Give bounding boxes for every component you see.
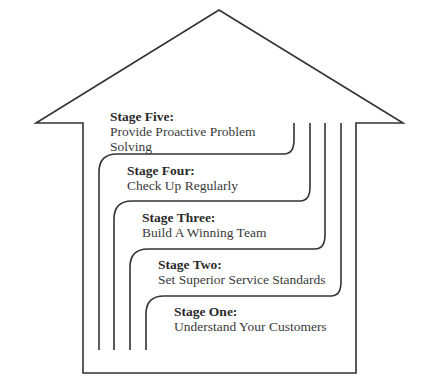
stage-two-text: Set Superior Service Standards: [158, 272, 326, 287]
stage-three-text: Build A Winning Team: [142, 225, 266, 240]
stage-four-text: Check Up Regularly: [127, 178, 238, 193]
stage-five-title: Stage Five:: [110, 109, 255, 124]
stage-one-title: Stage One:: [174, 304, 327, 319]
stage-five-text-line-1: Provide Proactive Problem: [110, 124, 255, 139]
stage-five-text-line-2: Solving: [110, 139, 255, 154]
stage-two: Stage Two: Set Superior Service Standard…: [158, 257, 326, 287]
stage-three-title: Stage Three:: [142, 210, 266, 225]
stage-four-title: Stage Four:: [127, 163, 238, 178]
stage-one: Stage One: Understand Your Customers: [174, 304, 327, 334]
stage-five: Stage Five: Provide Proactive Problem So…: [110, 109, 255, 154]
stage-three: Stage Three: Build A Winning Team: [142, 210, 266, 240]
stage-two-title: Stage Two:: [158, 257, 326, 272]
stage-one-text: Understand Your Customers: [174, 319, 327, 334]
stage-four: Stage Four: Check Up Regularly: [127, 163, 238, 193]
